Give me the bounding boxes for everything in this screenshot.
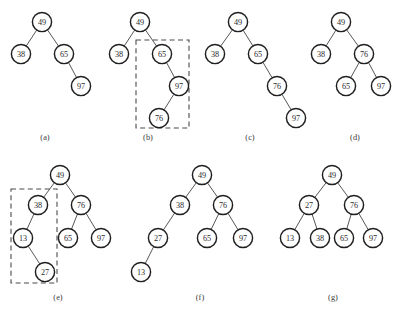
tree-node-97[interactable]: 97 — [363, 228, 382, 247]
node-label: 49 — [234, 18, 242, 27]
tree-edge-65-76 — [263, 62, 272, 78]
tree-node-76[interactable]: 76 — [267, 76, 286, 95]
tree-node-76[interactable]: 76 — [71, 195, 90, 214]
panel-caption-e: (e) — [53, 293, 63, 302]
node-label: 49 — [337, 18, 345, 27]
tree-edge-76-65 — [72, 214, 78, 229]
node-label: 76 — [350, 201, 358, 210]
panel-caption-f: (f) — [196, 293, 205, 302]
node-label: 49 — [136, 18, 144, 27]
tree-edge-76-65 — [351, 62, 360, 77]
node-label: 97 — [369, 234, 377, 243]
panel-caption-a: (a) — [40, 133, 50, 142]
tree-edge-49-76 — [66, 183, 76, 197]
node-label: 13 — [286, 234, 294, 243]
node-label: 97 — [292, 114, 300, 123]
panel-c: 4938657697(c) — [205, 12, 305, 141]
tree-node-38[interactable]: 38 — [311, 44, 330, 63]
tree-node-49[interactable]: 49 — [322, 165, 341, 184]
tree-node-38[interactable]: 38 — [109, 44, 128, 63]
node-label: 38 — [17, 50, 25, 59]
tree-edge-49-38 — [221, 30, 233, 46]
tree-node-76[interactable]: 76 — [344, 195, 363, 214]
node-label: 97 — [97, 234, 105, 243]
figure-container: 49386597(a)4938659776(b)4938657697(c)493… — [0, 0, 401, 312]
tree-node-65[interactable]: 65 — [54, 44, 73, 63]
node-label: 49 — [38, 18, 46, 27]
node-label: 13 — [19, 234, 27, 243]
panel-e: 49387613659727(e) — [11, 165, 111, 301]
node-label: 27 — [154, 234, 162, 243]
tree-node-65[interactable]: 65 — [197, 228, 216, 247]
tree-node-65[interactable]: 65 — [336, 76, 355, 95]
tree-node-38[interactable]: 38 — [205, 44, 224, 63]
tree-edge-49-76 — [208, 183, 218, 197]
panel-f: 49387627659713(f) — [131, 165, 252, 301]
tree-node-27[interactable]: 27 — [35, 262, 54, 281]
node-label: 65 — [60, 50, 68, 59]
tree-node-97[interactable]: 97 — [91, 228, 110, 247]
tree-node-97[interactable]: 97 — [286, 108, 305, 127]
tree-node-76[interactable]: 76 — [354, 44, 373, 63]
tree-edge-76-97 — [228, 213, 238, 230]
tree-node-13[interactable]: 13 — [131, 262, 150, 281]
tree-node-27[interactable]: 27 — [148, 228, 167, 247]
tree-node-38[interactable]: 38 — [11, 44, 30, 63]
tree-node-49[interactable]: 49 — [32, 12, 51, 31]
node-label: 38 — [34, 201, 42, 210]
tree-edge-13-27 — [28, 246, 40, 264]
tree-node-97[interactable]: 97 — [71, 76, 90, 95]
node-label: 38 — [317, 50, 325, 59]
tree-node-38[interactable]: 38 — [310, 228, 329, 247]
tree-node-97[interactable]: 97 — [233, 228, 252, 247]
tree-edge-38-27 — [163, 213, 174, 230]
tree-edge-27-13 — [295, 213, 304, 229]
panel-b: 4938659776(b) — [109, 12, 189, 141]
tree-edge-76-65 — [347, 214, 351, 229]
tree-node-65[interactable]: 65 — [248, 44, 267, 63]
node-label: 76 — [273, 82, 281, 91]
tree-node-65[interactable]: 65 — [152, 44, 171, 63]
node-label: 27 — [305, 201, 313, 210]
tree-node-65[interactable]: 65 — [334, 228, 353, 247]
node-label: 13 — [137, 268, 145, 277]
tree-edge-65-97 — [167, 62, 175, 77]
node-label: 65 — [203, 234, 211, 243]
tree-edge-49-38 — [26, 30, 36, 46]
node-label: 38 — [211, 50, 219, 59]
node-label: 49 — [198, 171, 206, 180]
node-label: 65 — [158, 50, 166, 59]
panel-caption-d: (d) — [350, 133, 360, 142]
tree-edge-65-97 — [69, 62, 77, 77]
tree-node-49[interactable]: 49 — [50, 165, 69, 184]
node-label: 65 — [342, 82, 350, 91]
node-label: 65 — [64, 234, 72, 243]
tree-edge-76-65 — [211, 214, 219, 230]
node-label: 27 — [41, 268, 49, 277]
panel-caption-b: (b) — [143, 133, 153, 142]
tree-node-65[interactable]: 65 — [58, 228, 77, 247]
tree-node-76[interactable]: 76 — [213, 195, 232, 214]
tree-edge-49-38 — [124, 30, 134, 46]
tree-edge-49-76 — [338, 183, 349, 198]
tree-node-97[interactable]: 97 — [371, 76, 390, 95]
tree-node-38[interactable]: 38 — [28, 195, 47, 214]
node-label: 76 — [155, 114, 163, 123]
tree-node-27[interactable]: 27 — [299, 195, 318, 214]
tree-edge-76-97 — [86, 213, 96, 230]
tree-node-49[interactable]: 49 — [130, 12, 149, 31]
tree-edge-76-97 — [282, 94, 291, 110]
tree-node-49[interactable]: 49 — [192, 165, 211, 184]
node-label: 97 — [377, 82, 385, 91]
tree-node-38[interactable]: 38 — [170, 195, 189, 214]
binary-search-tree-figure: 49386597(a)4938659776(b)4938657697(c)493… — [0, 0, 401, 312]
tree-node-49[interactable]: 49 — [228, 12, 247, 31]
node-label: 97 — [175, 82, 183, 91]
tree-node-49[interactable]: 49 — [331, 12, 350, 31]
tree-node-97[interactable]: 97 — [169, 76, 188, 95]
tree-node-76[interactable]: 76 — [149, 108, 168, 127]
tree-node-13[interactable]: 13 — [13, 228, 32, 247]
tree-node-13[interactable]: 13 — [280, 228, 299, 247]
node-label: 65 — [254, 50, 262, 59]
panel-a: 49386597(a) — [11, 12, 90, 141]
